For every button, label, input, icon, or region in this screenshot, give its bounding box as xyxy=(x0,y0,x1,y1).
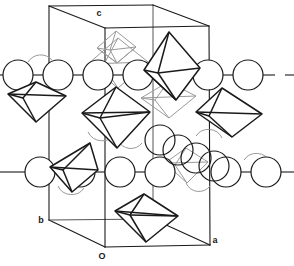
axis-label-origin: O xyxy=(98,251,105,261)
axis-label-b: b xyxy=(38,215,44,225)
crystal-structure-figure: c b a O xyxy=(0,0,294,266)
atom-circle xyxy=(251,157,281,187)
crystal-structure-svg: c b a O xyxy=(0,0,294,266)
atom-circle xyxy=(43,60,73,90)
atom-circle xyxy=(145,157,175,187)
atom-circle xyxy=(105,157,135,187)
atom-circle xyxy=(233,60,263,90)
atom-circle xyxy=(83,60,113,90)
axis-label-c: c xyxy=(96,8,101,18)
atom-circle xyxy=(25,157,55,187)
atom-circle xyxy=(211,157,241,187)
